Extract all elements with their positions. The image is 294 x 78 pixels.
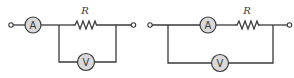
terminal-right — [287, 23, 291, 27]
resistor-icon — [73, 21, 98, 29]
ammeter: A — [25, 17, 41, 33]
circuit-diagram: A R V A R — [0, 0, 294, 78]
resistor: R — [73, 5, 98, 29]
voltmeter-label: V — [83, 57, 90, 68]
resistor-label: R — [80, 5, 89, 16]
ammeter-label: A — [205, 20, 212, 31]
terminal-left — [148, 23, 152, 27]
wire — [228, 25, 273, 63]
resistor-icon — [235, 21, 260, 29]
ammeter: A — [200, 17, 216, 33]
wire — [59, 25, 78, 62]
wire — [94, 25, 116, 62]
voltmeter-label: V — [217, 58, 224, 69]
terminal-left — [9, 23, 13, 27]
voltmeter: V — [212, 55, 229, 72]
resistor: R — [235, 5, 260, 29]
circuit-a: A R V — [9, 5, 136, 71]
terminal-right — [131, 23, 135, 27]
resistor-label: R — [242, 5, 251, 16]
circuit-b: A R V — [148, 5, 292, 72]
ammeter-label: A — [30, 20, 37, 31]
voltmeter: V — [78, 54, 95, 71]
